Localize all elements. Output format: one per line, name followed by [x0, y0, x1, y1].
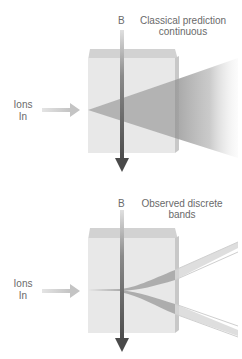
box-front-face — [88, 238, 175, 333]
continuous-beam-outside — [175, 58, 238, 158]
field-label-b: B — [118, 198, 125, 209]
classical-caption: Classical prediction continuous — [138, 15, 228, 37]
caption-line-2: bands — [140, 209, 224, 220]
field-arrow-head — [115, 338, 129, 352]
ions-arrow-head — [70, 284, 80, 298]
field-arrow-head — [115, 158, 129, 172]
ions-in-label: Ions In — [8, 99, 38, 123]
ions-label-line-1: Ions — [8, 99, 38, 111]
field-label-b: B — [118, 15, 125, 26]
caption-line-2: continuous — [138, 26, 228, 37]
ions-in-label: Ions In — [8, 278, 38, 302]
ions-label-line-1: Ions — [8, 278, 38, 290]
caption-line-1: Observed discrete — [140, 198, 224, 209]
ions-arrow-shaft — [42, 108, 72, 112]
ions-arrow-shaft — [42, 289, 72, 293]
field-arrow-shaft — [120, 210, 124, 342]
lower-band — [175, 304, 238, 336]
field-arrow-shaft — [120, 30, 124, 162]
ions-label-line-2: In — [8, 290, 38, 302]
upper-band — [175, 242, 238, 280]
ions-arrow-head — [70, 103, 80, 117]
panel-classical-prediction: B Classical prediction continuous Ions I… — [0, 0, 242, 180]
box-side-face — [175, 236, 179, 333]
ions-label-line-2: In — [8, 111, 38, 123]
observed-caption: Observed discrete bands — [140, 198, 224, 220]
caption-line-1: Classical prediction — [138, 15, 228, 26]
panel-observed-bands: B Observed discrete bands Ions In — [0, 180, 242, 359]
